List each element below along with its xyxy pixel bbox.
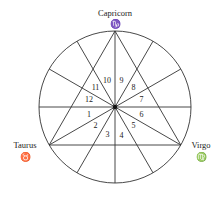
house-3: 3 [106, 130, 110, 139]
sign-label-taurus: Taurus [13, 140, 36, 150]
capricorn-glyph-icon: ♑ [110, 18, 121, 29]
virgo-glyph-icon: ♍ [196, 151, 207, 162]
house-8: 8 [132, 83, 136, 92]
house-1: 1 [87, 110, 91, 119]
house-10: 10 [103, 76, 111, 85]
house-4: 4 [120, 131, 124, 140]
house-2: 2 [94, 121, 98, 130]
house-5: 5 [132, 121, 136, 130]
house-12: 12 [85, 95, 93, 104]
house-7: 7 [140, 95, 144, 104]
taurus-glyph-icon: ♉ [20, 151, 31, 162]
house-6: 6 [140, 110, 144, 119]
center-dot [113, 105, 117, 109]
house-11: 11 [92, 83, 100, 92]
house-9: 9 [120, 76, 124, 85]
sign-label-capricorn: Capricorn [98, 8, 133, 18]
astrology-chart: Capricorn ♑ Taurus ♉ Virgo ♍ 1 2 3 4 5 6… [0, 0, 222, 207]
sign-label-virgo: Virgo [191, 140, 210, 150]
